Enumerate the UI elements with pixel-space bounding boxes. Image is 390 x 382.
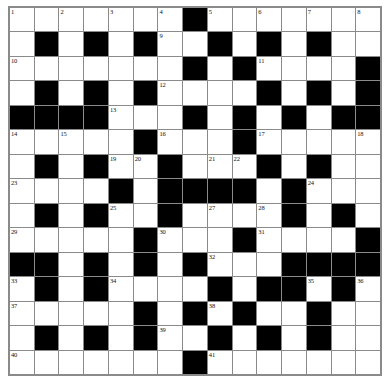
crossword-cell[interactable]: [307, 204, 331, 227]
crossword-cell[interactable]: [59, 57, 83, 80]
crossword-cell[interactable]: 6: [257, 8, 281, 31]
crossword-cell[interactable]: [158, 302, 182, 325]
crossword-cell[interactable]: [332, 130, 356, 153]
crossword-cell[interactable]: [35, 8, 59, 31]
crossword-cell[interactable]: 10: [10, 57, 34, 80]
crossword-cell[interactable]: 1: [10, 8, 34, 31]
crossword-cell[interactable]: 2: [59, 8, 83, 31]
crossword-cell[interactable]: [208, 57, 232, 80]
crossword-cell[interactable]: [10, 204, 34, 227]
crossword-cell[interactable]: [183, 32, 207, 55]
crossword-cell[interactable]: [332, 228, 356, 251]
crossword-cell[interactable]: 5: [208, 8, 232, 31]
crossword-cell[interactable]: [10, 326, 34, 349]
crossword-cell[interactable]: [332, 179, 356, 202]
crossword-cell[interactable]: 14: [10, 130, 34, 153]
crossword-cell[interactable]: [59, 326, 83, 349]
crossword-cell[interactable]: [183, 277, 207, 300]
crossword-cell[interactable]: [84, 130, 108, 153]
crossword-cell[interactable]: [134, 204, 158, 227]
crossword-cell[interactable]: 3: [109, 8, 133, 31]
crossword-cell[interactable]: [109, 81, 133, 104]
crossword-cell[interactable]: [134, 351, 158, 374]
crossword-cell[interactable]: [332, 155, 356, 178]
crossword-cell[interactable]: [84, 228, 108, 251]
crossword-cell[interactable]: [282, 302, 306, 325]
crossword-cell[interactable]: [84, 351, 108, 374]
crossword-cell[interactable]: [84, 302, 108, 325]
crossword-cell[interactable]: [183, 155, 207, 178]
crossword-cell[interactable]: [282, 155, 306, 178]
crossword-cell[interactable]: 7: [307, 8, 331, 31]
crossword-cell[interactable]: 12: [158, 81, 182, 104]
crossword-cell[interactable]: [282, 326, 306, 349]
crossword-cell[interactable]: [282, 81, 306, 104]
crossword-cell[interactable]: [356, 179, 380, 202]
crossword-cell[interactable]: [158, 106, 182, 129]
crossword-cell[interactable]: [233, 8, 257, 31]
crossword-cell[interactable]: [307, 228, 331, 251]
crossword-cell[interactable]: 28: [257, 204, 281, 227]
crossword-cell[interactable]: 4: [158, 8, 182, 31]
crossword-cell[interactable]: [332, 32, 356, 55]
crossword-cell[interactable]: [233, 351, 257, 374]
crossword-cell[interactable]: [233, 204, 257, 227]
crossword-cell[interactable]: 32: [208, 253, 232, 276]
crossword-cell[interactable]: [84, 8, 108, 31]
crossword-cell[interactable]: [307, 351, 331, 374]
crossword-cell[interactable]: [233, 32, 257, 55]
crossword-cell[interactable]: [208, 106, 232, 129]
crossword-cell[interactable]: 25: [109, 204, 133, 227]
crossword-cell[interactable]: [158, 57, 182, 80]
crossword-cell[interactable]: [332, 8, 356, 31]
crossword-cell[interactable]: [282, 32, 306, 55]
crossword-cell[interactable]: [134, 179, 158, 202]
crossword-cell[interactable]: [332, 326, 356, 349]
crossword-cell[interactable]: [307, 106, 331, 129]
crossword-cell[interactable]: [109, 302, 133, 325]
crossword-cell[interactable]: 17: [257, 130, 281, 153]
crossword-cell[interactable]: 33: [10, 277, 34, 300]
crossword-cell[interactable]: 30: [158, 228, 182, 251]
crossword-cell[interactable]: 15: [59, 130, 83, 153]
crossword-cell[interactable]: [356, 204, 380, 227]
crossword-cell[interactable]: 18: [356, 130, 380, 153]
crossword-cell[interactable]: [208, 81, 232, 104]
crossword-cell[interactable]: [183, 228, 207, 251]
crossword-cell[interactable]: [257, 351, 281, 374]
crossword-cell[interactable]: 37: [10, 302, 34, 325]
crossword-cell[interactable]: [332, 81, 356, 104]
crossword-cell[interactable]: [10, 155, 34, 178]
crossword-cell[interactable]: [109, 130, 133, 153]
crossword-cell[interactable]: [332, 302, 356, 325]
crossword-cell[interactable]: [332, 57, 356, 80]
crossword-cell[interactable]: 27: [208, 204, 232, 227]
crossword-cell[interactable]: [84, 57, 108, 80]
crossword-cell[interactable]: 20: [134, 155, 158, 178]
crossword-cell[interactable]: 22: [233, 155, 257, 178]
crossword-cell[interactable]: [183, 326, 207, 349]
crossword-cell[interactable]: [109, 253, 133, 276]
crossword-cell[interactable]: [59, 351, 83, 374]
crossword-cell[interactable]: [59, 277, 83, 300]
crossword-cell[interactable]: [59, 155, 83, 178]
crossword-cell[interactable]: [109, 326, 133, 349]
crossword-cell[interactable]: [233, 81, 257, 104]
crossword-cell[interactable]: 13: [109, 106, 133, 129]
crossword-cell[interactable]: [35, 302, 59, 325]
crossword-cell[interactable]: 36: [356, 277, 380, 300]
crossword-cell[interactable]: [183, 81, 207, 104]
crossword-cell[interactable]: [109, 351, 133, 374]
crossword-cell[interactable]: [282, 57, 306, 80]
crossword-cell[interactable]: 16: [158, 130, 182, 153]
crossword-cell[interactable]: [183, 204, 207, 227]
crossword-cell[interactable]: [257, 253, 281, 276]
crossword-cell[interactable]: [183, 130, 207, 153]
crossword-cell[interactable]: [134, 277, 158, 300]
crossword-cell[interactable]: [35, 179, 59, 202]
crossword-cell[interactable]: [257, 302, 281, 325]
crossword-cell[interactable]: [158, 351, 182, 374]
crossword-cell[interactable]: [356, 155, 380, 178]
crossword-cell[interactable]: [282, 351, 306, 374]
crossword-cell[interactable]: [208, 228, 232, 251]
